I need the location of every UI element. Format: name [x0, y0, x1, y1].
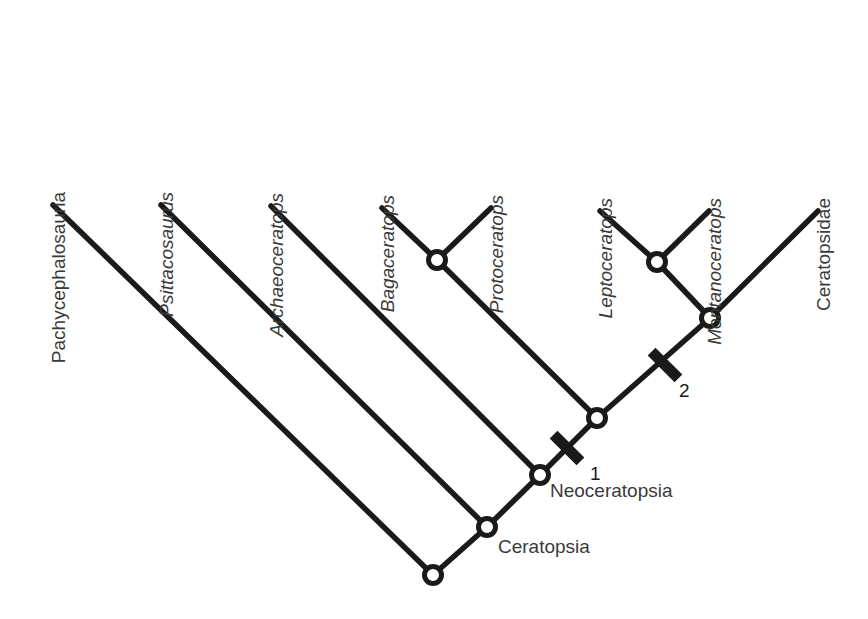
- tip-label-bagaceratops: Bagaceratops: [377, 195, 398, 313]
- node-ceratopsia: [479, 519, 496, 536]
- branch-ceratopsoidea-leptoceratopsidae: [657, 262, 710, 318]
- tip-label-psittacosaurus: Psittacosaurus: [156, 192, 177, 317]
- tip-label-leptoceratops: Leptoceratops: [595, 198, 616, 319]
- node-coronosauria: [589, 410, 606, 427]
- branch-protoceratops: [437, 208, 491, 260]
- node-neoceratopsia: [532, 467, 549, 484]
- tip-label-ceratopsidae: Ceratopsidae: [813, 198, 834, 311]
- marker-2-label: 2: [679, 380, 690, 401]
- branch-pachycephalosauria: [53, 205, 433, 575]
- branch-ceratopsia-neoceratopsia: [487, 475, 540, 527]
- cladogram-canvas: PachycephalosauriaPsittacosaurusArchaeoc…: [0, 0, 868, 619]
- node-leptoceratopsidae: [649, 254, 666, 271]
- tip-label-protoceratops: Protoceratops: [486, 195, 507, 314]
- marker-1-label: 1: [590, 463, 601, 484]
- node-root: [425, 567, 442, 584]
- tip-label-group: PachycephalosauriaPsittacosaurusArchaeoc…: [48, 192, 834, 364]
- branch-ceratopsidae: [710, 211, 818, 318]
- tip-label-montanoceratops: Montanoceratops: [704, 198, 725, 345]
- tip-label-archaeoceratops: Archaeoceratops: [266, 193, 287, 338]
- branch-coronosauria-ceratopsoidea: [597, 318, 710, 418]
- tip-label-pachycephalosauria: Pachycephalosauria: [48, 192, 69, 364]
- tree-node-group: [425, 252, 719, 584]
- cladogram-figure: PachycephalosauriaPsittacosaurusArchaeoc…: [0, 0, 868, 619]
- neoceratopsia-label: Neoceratopsia: [550, 480, 673, 501]
- marker-label-group: 12: [590, 380, 690, 484]
- node-protoceratopsidae: [429, 252, 446, 269]
- ceratopsia-label: Ceratopsia: [498, 536, 590, 557]
